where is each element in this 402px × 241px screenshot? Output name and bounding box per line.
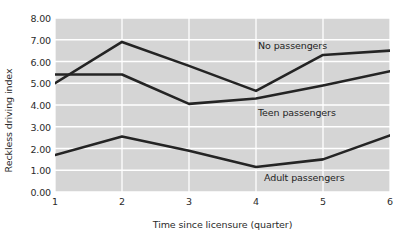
y-tick-label: 1.00 bbox=[5, 165, 51, 176]
y-tick-label: 4.00 bbox=[5, 100, 51, 111]
y-tick-label: 6.00 bbox=[5, 56, 51, 67]
series-line bbox=[55, 71, 390, 104]
x-tick-label: 5 bbox=[311, 196, 335, 207]
plot-area bbox=[55, 18, 390, 192]
y-tick-label: 3.00 bbox=[5, 121, 51, 132]
x-tick-label: 4 bbox=[244, 196, 268, 207]
y-tick-label: 8.00 bbox=[5, 13, 51, 24]
x-tick-label: 1 bbox=[43, 196, 67, 207]
series-label: Teen passengers bbox=[258, 107, 336, 118]
series-line bbox=[55, 135, 390, 167]
y-tick-label: 5.00 bbox=[5, 78, 51, 89]
y-tick-label: 2.00 bbox=[5, 143, 51, 154]
gridlines bbox=[55, 18, 390, 192]
series-label: Adult passengers bbox=[264, 172, 345, 183]
plot-svg bbox=[55, 18, 390, 192]
y-tick-label: 7.00 bbox=[5, 34, 51, 45]
x-tick-label: 6 bbox=[378, 196, 402, 207]
x-tick-label: 2 bbox=[110, 196, 134, 207]
x-axis-title: Time since licensure (quarter) bbox=[55, 219, 390, 230]
chart-figure: Reckless driving index 0.001.002.003.004… bbox=[0, 0, 402, 241]
series-label: No passengers bbox=[258, 40, 327, 51]
x-tick-label: 3 bbox=[177, 196, 201, 207]
